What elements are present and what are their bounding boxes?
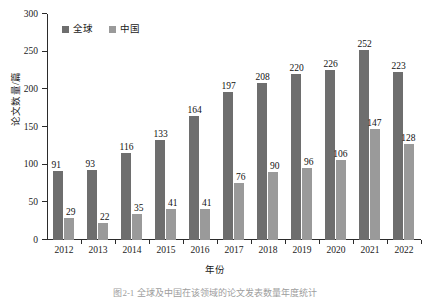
legend-swatch-icon-global [62,26,69,33]
x-axis-label-2014: 2014 [115,245,149,255]
bar-全球-2021: 252 [359,50,369,240]
x-axis-tick [319,240,320,244]
bar-中国-2022: 128 [404,144,414,240]
y-axis-tick [42,164,47,165]
bar-value-label: 90 [270,161,280,171]
x-axis-tick [81,240,82,244]
bar-value-label: 128 [401,133,415,143]
legend-label-china: 中国 [120,24,140,34]
x-axis-label-2016: 2016 [183,245,217,255]
bar-全球-2019: 220 [291,74,301,240]
bar-全球-2015: 133 [155,140,165,240]
bar-全球-2013: 93 [87,170,97,240]
bar-value-label: 35 [134,203,144,213]
x-axis-label-2018: 2018 [251,245,285,255]
plot-area: 0501001502002503009129932211635133411644… [47,14,421,240]
bar-value-label: 116 [120,142,134,152]
x-axis-tick [353,240,354,244]
y-axis-tick-label: 50 [6,198,38,208]
bar-中国-2019: 96 [302,168,312,240]
bar-中国-2012: 29 [64,218,74,240]
bar-value-label: 96 [304,157,314,167]
x-axis-tick [387,240,388,244]
legend: 全球 中国 [62,24,140,34]
legend-item-global: 全球 [62,24,93,34]
x-axis-label-2013: 2013 [81,245,115,255]
y-axis-tick [42,13,47,14]
bar-中国-2015: 41 [166,209,176,240]
bar-中国-2020: 106 [336,160,346,240]
x-axis-tick [251,240,252,244]
y-axis-tick-label: 100 [6,160,38,170]
bar-value-label: 41 [202,198,212,208]
x-axis-tick [421,240,422,244]
legend-swatch-icon-china [109,26,116,33]
bar-value-label: 93 [86,159,96,169]
y-axis-tick [42,126,47,127]
y-axis-line [47,14,48,240]
legend-item-china: 中国 [109,24,140,34]
y-axis-tick [42,51,47,52]
bar-value-label: 133 [154,129,168,139]
figure-caption: 图2-1 全球及中国在该领域的论文发表数量年度统计 [0,288,430,299]
bar-中国-2013: 22 [98,223,108,240]
bar-value-label: 147 [367,118,381,128]
bar-value-label: 76 [236,172,246,182]
x-axis-tick [285,240,286,244]
x-axis-label-2022: 2022 [387,245,421,255]
bar-value-label: 29 [66,207,76,217]
bar-value-label: 208 [256,72,270,82]
x-axis-tick [183,240,184,244]
x-axis-label-2012: 2012 [47,245,81,255]
x-axis-label-2015: 2015 [149,245,183,255]
legend-label-global: 全球 [73,24,93,34]
bar-value-label: 223 [392,61,406,71]
x-axis-label-2021: 2021 [353,245,387,255]
bar-value-label: 41 [168,198,178,208]
bar-中国-2017: 76 [234,183,244,240]
bar-全球-2018: 208 [257,83,267,240]
bar-中国-2016: 41 [200,209,210,240]
y-axis-tick [42,239,47,240]
bar-value-label: 164 [188,105,202,115]
y-axis-tick-label: 200 [6,85,38,95]
x-axis-tick [115,240,116,244]
bar-中国-2014: 35 [132,214,142,240]
x-axis-tick [149,240,150,244]
x-axis-label-2020: 2020 [319,245,353,255]
bar-中国-2021: 147 [370,129,380,240]
y-axis-tick [42,88,47,89]
bar-全球-2017: 197 [223,92,233,240]
y-axis-tick-label: 250 [6,47,38,57]
y-axis-tick [42,201,47,202]
x-axis-label-2019: 2019 [285,245,319,255]
bar-全球-2012: 91 [53,171,63,240]
bar-全球-2016: 164 [189,116,199,240]
bar-value-label: 252 [358,39,372,49]
bar-value-label: 22 [100,212,110,222]
bar-value-label: 220 [290,63,304,73]
y-axis-tick-label: 150 [6,123,38,133]
x-axis-tick [217,240,218,244]
bar-value-label: 197 [222,81,236,91]
bar-中国-2018: 90 [268,172,278,240]
y-axis-tick-label: 300 [6,10,38,20]
x-axis-title: 年份 [0,262,430,276]
y-axis-tick-label: 0 [6,236,38,246]
bar-value-label: 91 [52,160,62,170]
bar-value-label: 106 [333,149,347,159]
bar-全球-2022: 223 [393,72,403,240]
bar-value-label: 226 [324,59,338,69]
x-axis-label-2017: 2017 [217,245,251,255]
bar-全球-2014: 116 [121,153,131,240]
